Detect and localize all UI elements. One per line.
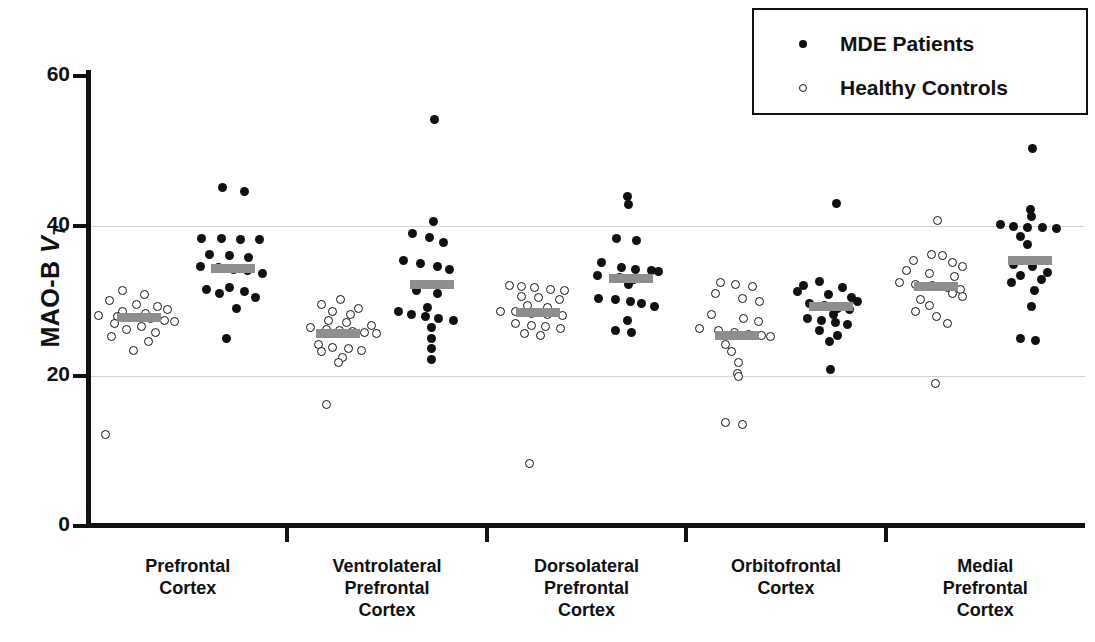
data-point-control xyxy=(322,400,331,409)
data-point-mde xyxy=(232,304,241,313)
category-label-0: PrefrontalCortex xyxy=(93,556,283,600)
category-label-line: Orbitofrontal xyxy=(691,556,881,578)
data-point-mde xyxy=(831,318,840,327)
data-point-mde xyxy=(218,183,227,192)
data-point-control xyxy=(107,332,116,341)
data-point-control xyxy=(129,346,138,355)
mean-bar xyxy=(809,302,853,311)
data-point-mde xyxy=(429,217,438,226)
data-point-mde xyxy=(1009,222,1018,231)
data-point-control xyxy=(932,312,941,321)
data-point-mde xyxy=(236,235,245,244)
data-point-control xyxy=(948,258,957,267)
data-point-control xyxy=(334,358,343,367)
y-axis-title-symbol: V xyxy=(36,236,64,253)
y-tick-0 xyxy=(73,524,86,528)
category-label-line: Ventrolateral xyxy=(292,556,482,578)
data-point-mde xyxy=(394,307,403,316)
data-point-control xyxy=(151,328,160,337)
data-point-mde xyxy=(815,277,824,286)
data-point-control xyxy=(766,332,775,341)
mean-bar xyxy=(410,280,454,289)
data-point-control xyxy=(324,316,333,325)
data-point-mde xyxy=(817,316,826,325)
data-point-mde xyxy=(1027,302,1036,311)
data-point-control xyxy=(734,358,743,367)
category-label-4: MedialPrefrontalCortex xyxy=(890,556,1080,622)
data-point-control xyxy=(357,346,366,355)
data-point-mde xyxy=(838,283,847,292)
mean-bar xyxy=(609,274,653,283)
data-point-mde xyxy=(430,115,439,124)
data-point-control xyxy=(711,289,720,298)
y-tick-40 xyxy=(73,224,86,228)
data-point-mde xyxy=(196,262,205,271)
data-point-mde xyxy=(832,199,841,208)
data-point-control xyxy=(909,256,918,265)
filled-circle-icon xyxy=(790,40,816,48)
mean-bar xyxy=(211,264,255,273)
data-point-mde xyxy=(433,262,442,271)
category-label-3: OrbitofrontalCortex xyxy=(691,556,881,600)
data-point-control xyxy=(525,459,534,468)
data-point-mde xyxy=(825,337,834,346)
category-label-line: Cortex xyxy=(890,600,1080,622)
data-point-control xyxy=(546,285,555,294)
data-point-control xyxy=(727,347,736,356)
data-point-mde xyxy=(815,326,824,335)
data-point-control xyxy=(530,283,539,292)
category-label-line: Cortex xyxy=(691,578,881,600)
data-point-control xyxy=(911,307,920,316)
data-point-control xyxy=(354,304,363,313)
data-point-control xyxy=(317,347,326,356)
data-point-control xyxy=(925,301,934,310)
data-point-control xyxy=(94,311,103,320)
mean-bar xyxy=(316,329,360,338)
data-point-mde xyxy=(593,271,602,280)
data-point-control xyxy=(317,300,326,309)
category-label-line: Medial xyxy=(890,556,1080,578)
data-point-mde xyxy=(627,328,636,337)
data-point-mde xyxy=(1016,232,1025,241)
data-point-mde xyxy=(617,263,626,272)
data-point-control xyxy=(938,251,947,260)
data-point-control xyxy=(738,294,747,303)
data-point-control xyxy=(170,317,179,326)
data-point-mde xyxy=(650,302,659,311)
data-point-mde xyxy=(611,326,620,335)
data-point-mde xyxy=(1031,336,1040,345)
data-point-mde xyxy=(853,297,862,306)
data-point-mde xyxy=(1016,334,1025,343)
data-point-mde xyxy=(251,293,260,302)
data-point-mde xyxy=(1023,223,1032,232)
data-point-mde xyxy=(439,238,448,247)
y-tick-20 xyxy=(73,374,86,378)
data-point-control xyxy=(328,307,337,316)
category-label-line: Dorsolateral xyxy=(492,556,682,578)
data-point-control xyxy=(754,317,763,326)
data-point-mde xyxy=(427,344,436,353)
data-point-control xyxy=(738,420,747,429)
data-point-control xyxy=(556,324,565,333)
category-label-line: Prefrontal xyxy=(93,556,283,578)
open-circle-icon xyxy=(790,84,816,92)
data-point-control xyxy=(527,321,536,330)
data-point-control xyxy=(925,269,934,278)
data-point-control xyxy=(927,250,936,259)
data-point-mde xyxy=(427,334,436,343)
data-point-control xyxy=(160,316,169,325)
data-point-mde xyxy=(793,287,802,296)
data-point-control xyxy=(695,324,704,333)
data-point-mde xyxy=(197,234,206,243)
data-point-mde xyxy=(425,233,434,242)
data-point-control xyxy=(734,372,743,381)
data-point-control xyxy=(101,430,110,439)
data-point-control xyxy=(360,328,369,337)
data-point-mde xyxy=(826,365,835,374)
data-point-mde xyxy=(624,200,633,209)
data-point-mde xyxy=(258,269,267,278)
data-point-control xyxy=(306,323,315,332)
data-point-control xyxy=(163,305,172,314)
data-point-mde xyxy=(1027,212,1036,221)
data-point-mde xyxy=(833,331,842,340)
